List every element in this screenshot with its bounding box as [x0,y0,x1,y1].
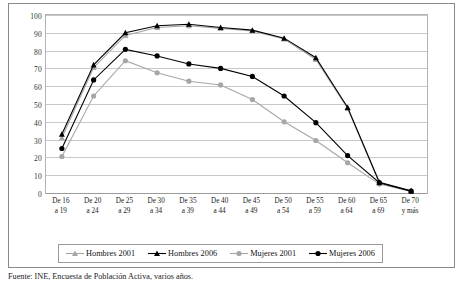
figure-container: 0102030405060708090100 De 16a 19De 20a 2… [8,3,455,268]
series-point-marker [345,160,350,165]
series-point-marker [123,58,128,63]
y-axis-tick-label: 0 [38,190,42,199]
series-point-marker [59,154,64,159]
circle-marker-icon [230,249,248,258]
y-axis-tick-label: 50 [34,101,42,110]
chart-x-axis-labels: De 16a 19De 20a 24De 25a 29De 30a 34De 3… [45,197,428,227]
x-axis-tick-label: De 40a 44 [211,197,228,216]
x-axis-tick-label: De 65a 69 [370,197,387,216]
series-point-marker [313,138,318,143]
x-axis-tick-label: De 25a 29 [116,197,133,216]
series-point-marker [345,153,350,158]
x-axis-tick-label: De 35a 39 [179,197,196,216]
series-point-marker [186,79,191,84]
series-line [62,61,411,192]
x-axis-tick-label: De 60a 64 [338,197,355,216]
series-point-marker [59,146,64,151]
legend-item-label: Mujeres 2001 [250,249,296,258]
series-point-marker [186,61,191,66]
y-axis-tick-label: 80 [34,47,42,56]
series-point-marker [377,180,382,185]
x-axis-tick-label: De 30a 34 [147,197,164,216]
series-point-marker [123,47,128,52]
legend-item-label: Mujeres 2006 [329,249,375,258]
series-point-marker [91,93,96,98]
series-line [62,26,411,192]
triangle-marker-icon [66,249,84,258]
series-point-marker [155,53,160,58]
legend-item-mujeres-2006[interactable]: Mujeres 2006 [309,249,375,258]
legend-item-hombres-2006[interactable]: Hombres 2006 [148,249,217,258]
legend-item-hombres-2001[interactable]: Hombres 2001 [66,249,135,258]
x-axis-tick-label: De 45a 49 [243,197,260,216]
chart-series-svg [46,15,427,193]
y-axis-tick-label: 40 [34,118,42,127]
y-axis-tick-label: 90 [34,29,42,38]
series-point-marker [313,120,318,125]
series-point-marker [409,189,414,194]
x-axis-tick-label: De 16a 19 [52,197,69,216]
y-axis-tick-label: 20 [34,154,42,163]
circle-marker-icon [309,249,327,258]
x-axis-tick-label: De 55a 59 [306,197,323,216]
x-axis-tick-label: De 70y más [401,197,418,216]
legend-item-mujeres-2001[interactable]: Mujeres 2001 [230,249,296,258]
triangle-marker-icon [148,249,166,258]
series-point-marker [282,119,287,124]
series-mujeres-2001 [59,58,413,194]
y-axis-tick-label: 70 [34,65,42,74]
legend-item-label: Hombres 2006 [168,249,217,258]
legend-item-label: Hombres 2001 [86,249,135,258]
series-line [62,24,411,191]
x-axis-tick-label: De 20a 24 [84,197,101,216]
series-point-marker [282,93,287,98]
series-point-marker [250,97,255,102]
series-point-marker [155,70,160,75]
series-point-marker [250,74,255,79]
series-point-marker [218,82,223,87]
series-point-marker [91,77,96,82]
x-axis-tick-label: De 50a 54 [274,197,291,216]
chart-plot-area: 0102030405060708090100 [45,14,428,194]
gridline-0: 0 [46,193,427,194]
chart-legend: Hombres 2001Hombres 2006Mujeres 2001Muje… [58,244,383,263]
figure-caption: Fuente: INE, Encuesta de Población Activ… [8,272,458,282]
y-axis-tick-label: 100 [30,12,42,21]
y-axis-tick-label: 30 [34,136,42,145]
y-axis-tick-label: 10 [34,172,42,181]
series-point-marker [218,66,223,71]
y-axis-tick-label: 60 [34,83,42,92]
series-hombres-2001 [59,23,414,194]
